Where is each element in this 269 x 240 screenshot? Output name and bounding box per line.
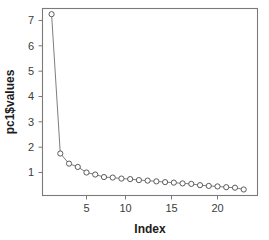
data-point xyxy=(84,170,89,175)
y-axis-title: pc1$values xyxy=(3,69,17,134)
data-point xyxy=(49,12,54,17)
y-tick-label-6: 6 xyxy=(28,40,34,52)
data-point xyxy=(180,181,185,186)
data-point xyxy=(189,181,194,186)
data-point xyxy=(110,175,115,180)
y-tick-label-2: 2 xyxy=(28,141,34,153)
data-point xyxy=(241,187,246,192)
chart-background xyxy=(0,0,269,240)
data-point xyxy=(171,180,176,185)
y-tick-label-7: 7 xyxy=(28,14,34,26)
data-point xyxy=(206,183,211,188)
x-axis-title: Index xyxy=(134,222,166,236)
data-point xyxy=(136,178,141,183)
data-point xyxy=(75,164,80,169)
data-point xyxy=(154,179,159,184)
x-tick-label-15: 15 xyxy=(165,202,177,214)
x-tick-label-20: 20 xyxy=(211,202,223,214)
x-tick-label-5: 5 xyxy=(83,202,89,214)
data-point xyxy=(101,174,106,179)
y-tick-label-1: 1 xyxy=(28,166,34,178)
data-point xyxy=(145,178,150,183)
data-point xyxy=(197,183,202,188)
data-point xyxy=(58,151,63,156)
data-point xyxy=(93,172,98,177)
scree-plot-screenshot: 1 2 3 4 5 6 7 5 10 15 20 Index pc1$value… xyxy=(0,0,269,240)
data-point xyxy=(66,161,71,166)
y-tick-label-4: 4 xyxy=(28,90,34,102)
data-point xyxy=(128,176,133,181)
data-point xyxy=(215,184,220,189)
y-tick-label-5: 5 xyxy=(28,65,34,77)
y-tick-label-3: 3 xyxy=(28,116,34,128)
scree-plot-chart: 1 2 3 4 5 6 7 5 10 15 20 Index pc1$value… xyxy=(0,0,269,240)
x-tick-label-10: 10 xyxy=(119,202,131,214)
data-point xyxy=(224,185,229,190)
data-point xyxy=(163,180,168,185)
data-point xyxy=(232,185,237,190)
data-point xyxy=(119,176,124,181)
